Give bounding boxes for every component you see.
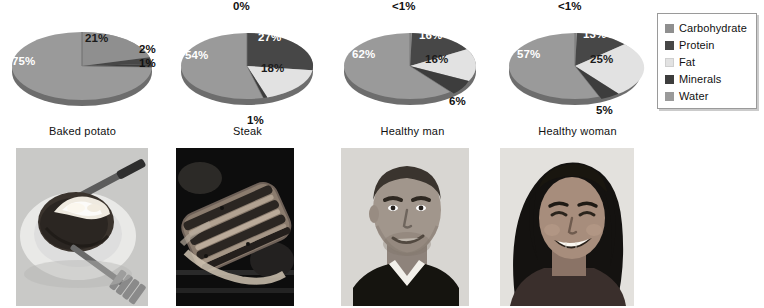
legend-swatch-icon <box>665 75 674 84</box>
legend-label: Protein <box>679 40 715 51</box>
legend-label: Carbohydrate <box>679 23 747 34</box>
healthy-man-portrait <box>341 148 469 306</box>
photos-row <box>0 146 660 308</box>
legend-swatch-icon <box>665 58 674 67</box>
pie-graphic <box>495 14 660 114</box>
legend-swatch-icon <box>665 24 674 33</box>
chart-legend: Carbohydrate Protein Fat Minerals Water <box>657 13 757 109</box>
pie-caption: Healthy man <box>330 125 495 137</box>
legend-swatch-icon <box>665 41 674 50</box>
pie-chart-healthy-man: <1% 16% 16% 6% 62% Healthy man <box>330 0 495 140</box>
steak-illustration <box>176 148 294 306</box>
pie-graphic <box>0 14 165 114</box>
legend-item-water: Water <box>665 88 751 104</box>
pie-chart-baked-potato: 75% 21% 2% 1% Baked potato <box>0 0 165 140</box>
healthy-man-photo <box>341 148 469 306</box>
legend-label: Water <box>679 91 708 102</box>
pie-svg-healthy-woman <box>495 14 660 114</box>
slice-label-carbohydrate: <1% <box>558 0 582 12</box>
pie-svg-baked-potato <box>0 14 165 114</box>
pie-chart-steak: 0% 27% 18% 1% 54% Steak <box>165 0 330 140</box>
pie-charts-row: 75% 21% 2% 1% Baked potato <box>0 0 660 140</box>
pie-caption: Healthy woman <box>495 125 660 137</box>
pie-svg-steak <box>165 14 330 114</box>
steak-photo <box>176 148 294 306</box>
legend-label: Minerals <box>679 74 721 85</box>
healthy-woman-portrait <box>500 148 634 306</box>
legend-label: Fat <box>679 57 695 68</box>
healthy-woman-photo <box>500 148 634 306</box>
pie-caption: Steak <box>165 125 330 137</box>
legend-swatch-icon <box>665 92 674 101</box>
baked-potato-photo <box>16 148 148 306</box>
legend-item-fat: Fat <box>665 54 751 70</box>
baked-potato-illustration <box>16 148 148 306</box>
legend-item-carbohydrate: Carbohydrate <box>665 20 751 36</box>
pie-svg-healthy-man <box>330 14 495 114</box>
legend-item-protein: Protein <box>665 37 751 53</box>
pie-chart-healthy-woman: <1% 13% 25% 5% 57% Healthy woman <box>495 0 660 140</box>
slice-label-carbohydrate: 0% <box>233 0 250 12</box>
pie-caption: Baked potato <box>0 125 165 137</box>
pie-graphic <box>165 14 330 114</box>
pie-graphic <box>330 14 495 114</box>
legend-item-minerals: Minerals <box>665 71 751 87</box>
slice-label-carbohydrate: <1% <box>392 0 416 12</box>
